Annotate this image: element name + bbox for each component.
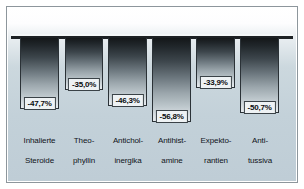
bar-group: -33,9% <box>196 38 235 88</box>
chart-figure: -47,7% -35,0% -46,3% -56,8% -33,9% -50,7… <box>0 0 304 189</box>
category-label-line2: Steroide <box>25 156 54 165</box>
category-label-line1: Antichol- <box>113 136 143 145</box>
category-label: Anti- tussiva <box>232 126 288 166</box>
category-label-line1: Antihist- <box>158 136 186 145</box>
bar-value-label: -46,3% <box>111 94 143 107</box>
category-label-line2: amine <box>161 156 182 165</box>
category-label-line2: inergika <box>114 156 141 165</box>
category-label-line2: phyllin <box>73 156 95 165</box>
bar-value-label: -50,7% <box>243 101 275 114</box>
bar-group: -46,3% <box>108 38 147 106</box>
bar-value-label: -47,7% <box>23 97 55 110</box>
bar-value-label: -35,0% <box>68 78 100 91</box>
category-label-line2: tussiva <box>248 156 272 165</box>
bar-value-label: -33,9% <box>199 76 231 89</box>
category-label-line1: Expekto- <box>201 136 232 145</box>
bar-group: -35,0% <box>65 38 103 90</box>
bar-group: -50,7% <box>240 38 279 113</box>
bar-group: -56,8% <box>152 38 191 122</box>
category-label-line1: Theo- <box>74 136 94 145</box>
category-label-line1: Anti- <box>252 136 268 145</box>
category-label-line2: rantien <box>204 156 228 165</box>
bar-group: -47,7% <box>20 38 59 109</box>
bar-value-label: -56,8% <box>155 110 187 123</box>
category-label-line1: Inhalierte <box>24 136 56 145</box>
